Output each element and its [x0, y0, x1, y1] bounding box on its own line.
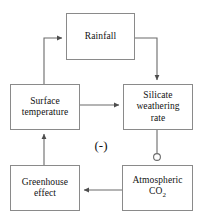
node-rainfall-label: Rainfall: [67, 31, 134, 43]
node-atmospheric-co2-subscript: 2: [162, 191, 166, 199]
node-atmospheric-co2-label: AtmosphericCO2: [123, 175, 192, 202]
edge-rainfall-to-silicate: [135, 38, 157, 80]
node-rainfall: Rainfall: [66, 13, 135, 60]
edge-surface-to-rainfall: [44, 38, 62, 84]
negative-feedback-sign: (-): [84, 138, 118, 154]
node-surface-temperature-label: Surface temperature: [11, 96, 79, 119]
node-silicate-weathering-rate: Silicate weathering rate: [123, 84, 193, 130]
node-atmospheric-co2-word: Atmospheric: [132, 175, 182, 185]
diagram-canvas: Rainfall Surface temperature Silicate we…: [0, 0, 203, 219]
node-greenhouse-effect-label: Greenhouse effect: [11, 177, 79, 200]
node-silicate-weathering-rate-label: Silicate weathering rate: [124, 90, 192, 125]
node-greenhouse-effect: Greenhouse effect: [10, 165, 80, 211]
node-atmospheric-co2: AtmosphericCO2: [122, 165, 193, 211]
node-surface-temperature: Surface temperature: [10, 84, 80, 130]
inhibition-circle-marker: [154, 154, 161, 161]
node-atmospheric-co2-formula: CO: [149, 186, 162, 196]
